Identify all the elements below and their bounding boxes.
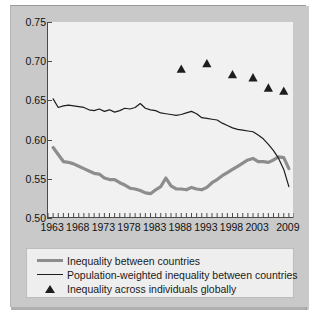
legend-label: Population-weighted inequality between c… <box>67 269 298 281</box>
scatter-marker-3 <box>248 73 257 81</box>
plot-area-wrapper <box>47 22 293 218</box>
series-line-0 <box>53 147 289 193</box>
panel-shadow-right <box>306 6 309 310</box>
y-tick-mark <box>47 100 52 101</box>
thick-line-key-icon <box>33 254 67 267</box>
x-axis: 1963196819731978198319881993199820032009 <box>47 221 297 237</box>
scatter-marker-1 <box>202 59 211 67</box>
x-tick-label: 2003 <box>245 221 268 233</box>
x-tick-label: 1963 <box>40 221 63 233</box>
y-tick-mark <box>47 22 52 23</box>
legend-item-inequality-between-countries: Inequality between countries <box>33 254 287 267</box>
panel-shadow-bottom <box>11 307 307 310</box>
scatter-marker-2 <box>228 70 237 78</box>
series-line-1 <box>53 99 289 187</box>
y-tick-label: 0.75 <box>12 17 46 27</box>
scatter-marker-5 <box>279 86 288 94</box>
y-tick-label: 0.55 <box>12 174 46 184</box>
x-tick-label: 1993 <box>194 221 217 233</box>
legend-item-population-weighted-inequality: Population-weighted inequality between c… <box>33 268 287 281</box>
y-tick-label: 0.65 <box>12 95 46 105</box>
y-tick-mark <box>47 61 52 62</box>
scatter-marker-4 <box>264 83 273 91</box>
legend-item-inequality-across-individuals: Inequality across individuals globally <box>33 282 287 295</box>
chart-legend: Inequality between countries Population-… <box>26 248 294 298</box>
y-tick-label: 0.70 <box>12 56 46 66</box>
x-tick-label: 1968 <box>66 221 89 233</box>
thin-line-key-icon <box>33 268 67 281</box>
y-tick-mark <box>47 140 52 141</box>
y-tick-mark <box>47 179 52 180</box>
x-tick-label: 1973 <box>92 221 115 233</box>
plot-area <box>47 22 293 218</box>
x-tick-label: 1978 <box>117 221 140 233</box>
scatter-marker-0 <box>177 64 186 72</box>
triangle-marker-icon <box>33 282 67 295</box>
y-axis: 0.750.700.650.600.550.50 <box>8 22 46 218</box>
y-tick-mark <box>47 218 52 219</box>
y-tick-label: 0.60 <box>12 135 46 145</box>
x-tick-label: 1988 <box>169 221 192 233</box>
x-tick-label: 1998 <box>220 221 243 233</box>
plot-svg <box>48 22 294 218</box>
legend-label: Inequality across individuals globally <box>67 283 236 295</box>
legend-label: Inequality between countries <box>67 255 200 267</box>
x-tick-label: 2009 <box>276 221 299 233</box>
chart-figure: 0.750.700.650.600.550.50 196319681973197… <box>0 0 325 323</box>
x-tick-label: 1983 <box>143 221 166 233</box>
